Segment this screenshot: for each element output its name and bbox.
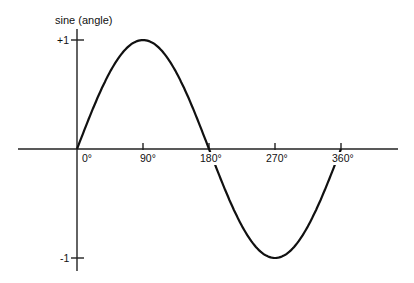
x-tick-label-360: 360° bbox=[332, 152, 354, 164]
y-axis-title: sine (angle) bbox=[55, 14, 112, 26]
y-tick-label-plus1: +1 bbox=[57, 34, 69, 46]
x-tick-label-180: 180° bbox=[200, 152, 222, 164]
x-tick-label-270: 270° bbox=[266, 152, 288, 164]
x-tick-label-0: 0° bbox=[82, 152, 92, 164]
y-tick-label-minus1: -1 bbox=[60, 252, 69, 264]
x-tick-label-90: 90° bbox=[140, 152, 156, 164]
sine-chart: sine (angle) +1 -1 0° 90° 180° 270° 360° bbox=[0, 0, 414, 283]
